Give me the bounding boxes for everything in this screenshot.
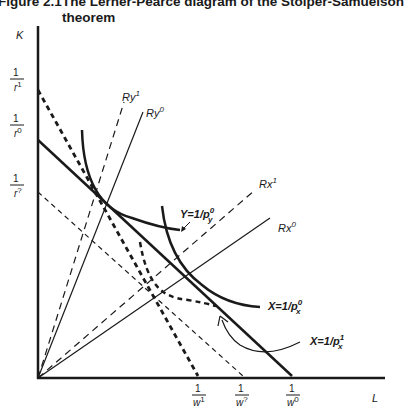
ray-ry0-label: Ry0	[146, 105, 164, 119]
ray-rx1	[38, 190, 255, 378]
y-tick-r1: 1 r1	[10, 67, 24, 93]
isocost-line-0	[38, 140, 292, 376]
y-tick-r0: 1 r0	[10, 113, 24, 139]
ray-ry0	[38, 112, 143, 378]
svg-text:r1: r1	[14, 80, 22, 93]
x-axis-label: L	[372, 392, 378, 404]
ray-rx0	[38, 218, 270, 378]
svg-text:w1: w1	[193, 395, 205, 408]
ray-rx1-label: Rx1	[259, 176, 277, 190]
svg-text:1: 1	[289, 383, 295, 394]
svg-text:r?: r?	[14, 186, 22, 199]
svg-text:1: 1	[13, 113, 19, 124]
x-tick-w-question: 1 w?	[235, 383, 249, 408]
isoquant-y-label: Y=1/p0y	[180, 206, 215, 224]
isocost-line-1	[38, 90, 198, 376]
ray-ry1	[38, 102, 124, 378]
svg-text:1: 1	[238, 383, 244, 394]
ray-rx0-label: Rx0	[278, 220, 296, 234]
svg-text:1: 1	[13, 173, 19, 184]
svg-text:1: 1	[13, 67, 19, 78]
isoquant-y	[82, 130, 180, 230]
ray-ry1-label: Ry1	[122, 89, 140, 103]
svg-text:r0: r0	[14, 126, 22, 139]
y-axis-label: K	[16, 29, 24, 41]
x-tick-w1: 1 w1	[192, 383, 206, 408]
svg-text:w0: w0	[287, 395, 299, 408]
isoquant-x0-label: X=1/p0x	[267, 298, 303, 316]
svg-text:w?: w?	[236, 395, 248, 408]
isoquant-x1-label: X=1/p1x	[309, 333, 345, 351]
svg-text:1: 1	[195, 383, 201, 394]
y-tick-r-question: 1 r?	[10, 173, 24, 199]
x-tick-w0: 1 w0	[286, 383, 300, 408]
